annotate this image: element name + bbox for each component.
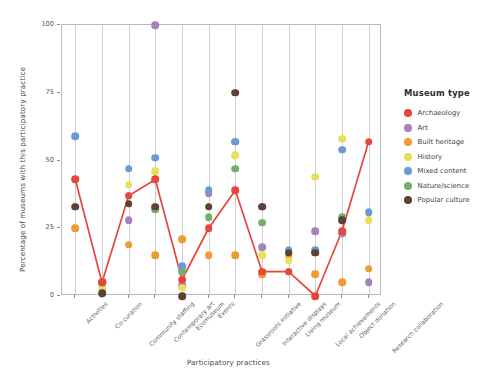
data-point bbox=[178, 276, 186, 284]
x-tick-mark bbox=[208, 295, 209, 298]
data-point bbox=[258, 243, 266, 251]
legend-swatch-icon bbox=[404, 138, 412, 146]
legend-item-label: Nature/science bbox=[418, 182, 470, 190]
x-tick-mark bbox=[234, 295, 235, 298]
x-tick-mark bbox=[154, 295, 155, 298]
legend-swatch-icon bbox=[404, 196, 412, 204]
plot-area bbox=[61, 24, 381, 295]
data-point bbox=[125, 241, 133, 249]
legend-item-label: Built heritage bbox=[418, 138, 465, 146]
x-tick-mark bbox=[341, 295, 342, 298]
legend-swatch-icon bbox=[404, 124, 412, 132]
x-tick-label: Research collaboration bbox=[390, 300, 444, 354]
y-tick-mark bbox=[57, 295, 60, 296]
data-point bbox=[152, 176, 160, 184]
gridline bbox=[75, 25, 76, 294]
data-point bbox=[72, 132, 80, 140]
data-point bbox=[98, 279, 106, 287]
legend-item-label: Art bbox=[418, 124, 428, 132]
x-tick-label: Contemporary art bbox=[172, 300, 215, 343]
data-point bbox=[152, 203, 160, 211]
data-point bbox=[152, 21, 160, 29]
data-point bbox=[178, 292, 186, 300]
data-point bbox=[258, 268, 266, 276]
data-point bbox=[232, 89, 240, 97]
data-point bbox=[125, 181, 133, 189]
data-point bbox=[125, 165, 133, 173]
data-point bbox=[312, 227, 320, 235]
data-point bbox=[152, 252, 160, 260]
legend-item[interactable]: Archaeology bbox=[404, 106, 496, 121]
data-point bbox=[312, 173, 320, 181]
data-point bbox=[152, 168, 160, 176]
legend-item[interactable]: Built heritage bbox=[404, 135, 496, 150]
y-tick-label: 50 bbox=[32, 156, 54, 164]
legend-swatch-icon bbox=[404, 182, 412, 190]
data-point bbox=[365, 279, 373, 287]
data-point bbox=[312, 292, 320, 300]
gridline bbox=[102, 25, 103, 294]
data-point bbox=[232, 252, 240, 260]
y-tick-mark bbox=[57, 160, 60, 161]
data-point bbox=[285, 268, 293, 276]
data-point bbox=[258, 252, 266, 260]
legend-item[interactable]: Nature/science bbox=[404, 179, 496, 194]
data-point bbox=[178, 284, 186, 292]
legend-items: ArchaeologyArtBuilt heritageHistoryMixed… bbox=[404, 106, 496, 208]
data-point bbox=[365, 216, 373, 224]
data-point bbox=[205, 203, 213, 211]
data-point bbox=[98, 289, 106, 297]
y-tick-mark bbox=[57, 24, 60, 25]
x-tick-mark bbox=[74, 295, 75, 298]
legend-swatch-icon bbox=[404, 167, 412, 175]
legend-title: Museum type bbox=[404, 88, 496, 98]
legend-swatch-icon bbox=[404, 153, 412, 161]
data-point bbox=[205, 252, 213, 260]
data-point bbox=[338, 216, 346, 224]
data-point bbox=[338, 227, 346, 235]
x-tick-label: Activities bbox=[84, 300, 109, 325]
y-tick-label: 75 bbox=[32, 88, 54, 96]
data-point bbox=[232, 138, 240, 146]
y-tick-label: 25 bbox=[32, 223, 54, 231]
x-tick-label: Grassroots initiative bbox=[254, 300, 302, 348]
data-point bbox=[338, 146, 346, 154]
data-point bbox=[338, 135, 346, 143]
data-point bbox=[72, 176, 80, 184]
data-point bbox=[365, 138, 373, 146]
gridline bbox=[182, 25, 183, 294]
legend-item[interactable]: Popular culture bbox=[404, 193, 496, 208]
legend-item[interactable]: Art bbox=[404, 121, 496, 136]
data-point bbox=[285, 257, 293, 265]
legend-swatch-icon bbox=[404, 109, 412, 117]
data-point bbox=[72, 203, 80, 211]
y-tick-mark bbox=[57, 227, 60, 228]
data-point bbox=[232, 151, 240, 159]
data-point bbox=[205, 224, 213, 232]
data-point bbox=[72, 224, 80, 232]
data-point bbox=[365, 208, 373, 216]
y-tick-label: 100 bbox=[32, 20, 54, 28]
legend-item-label: Popular culture bbox=[418, 196, 470, 204]
gridline bbox=[342, 25, 343, 294]
data-point bbox=[178, 268, 186, 276]
data-point bbox=[258, 219, 266, 227]
data-point bbox=[258, 203, 266, 211]
data-point bbox=[232, 187, 240, 195]
x-tick-mark bbox=[368, 295, 369, 298]
data-point bbox=[232, 165, 240, 173]
legend-item[interactable]: History bbox=[404, 150, 496, 165]
data-point bbox=[312, 271, 320, 279]
x-tick-mark bbox=[128, 295, 129, 298]
data-point bbox=[125, 200, 133, 208]
x-axis-title: Participatory practices bbox=[187, 358, 270, 367]
gridline bbox=[369, 25, 370, 294]
y-tick-label: 0 bbox=[32, 291, 54, 299]
data-point bbox=[125, 192, 133, 200]
legend: Museum type ArchaeologyArtBuilt heritage… bbox=[404, 88, 496, 208]
data-point bbox=[205, 214, 213, 222]
data-point bbox=[125, 216, 133, 224]
data-point bbox=[152, 154, 160, 162]
x-tick-mark bbox=[261, 295, 262, 298]
legend-item[interactable]: Mixed content bbox=[404, 164, 496, 179]
